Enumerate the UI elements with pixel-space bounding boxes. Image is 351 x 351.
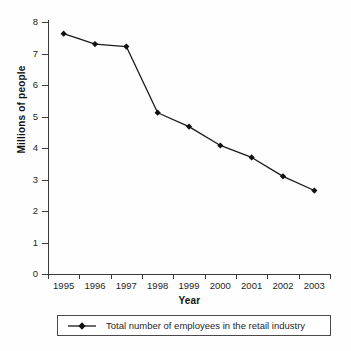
data-point-marker	[123, 43, 129, 49]
x-axis-tick	[299, 274, 300, 279]
y-axis-tick-label: 2	[12, 206, 38, 216]
x-axis-tick	[79, 274, 80, 279]
x-axis-title: Year	[48, 295, 331, 306]
data-series-line	[48, 22, 330, 274]
y-axis-tick-label: 8	[12, 17, 38, 27]
x-axis-tick	[142, 274, 143, 279]
series-polyline	[64, 34, 315, 191]
data-point-marker	[186, 123, 192, 129]
x-axis-line	[48, 274, 331, 275]
x-axis-tick	[173, 274, 174, 279]
data-point-marker	[280, 173, 286, 179]
y-axis-tick-label: 3	[12, 175, 38, 185]
legend-line-diamond-icon	[67, 320, 97, 332]
data-point-marker	[311, 187, 317, 193]
y-axis-tick-label: 0	[12, 269, 38, 279]
x-axis-tick	[236, 274, 237, 279]
y-axis-tick-label: 1	[12, 238, 38, 248]
data-point-marker	[92, 41, 98, 47]
data-point-marker	[61, 31, 67, 37]
chart-figure: 012345678 199519961997199819992000200120…	[0, 0, 351, 351]
data-point-marker	[155, 110, 161, 116]
x-axis-tick	[111, 274, 112, 279]
data-point-marker	[249, 154, 255, 160]
x-axis-tick-label: 2003	[294, 281, 334, 291]
legend-item-label: Total number of employees in the retail …	[106, 321, 305, 331]
chart-legend: Total number of employees in the retail …	[57, 315, 331, 336]
plot-area	[48, 22, 330, 274]
x-axis-tick	[205, 274, 206, 279]
y-axis-title: Millions of people	[16, 45, 27, 175]
data-point-marker	[217, 142, 223, 148]
x-axis-tick	[48, 274, 49, 279]
x-axis-tick	[330, 274, 331, 279]
x-axis-tick	[267, 274, 268, 279]
